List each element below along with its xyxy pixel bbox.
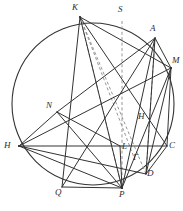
point-label-N: N [46,101,52,110]
segment-M-C [167,68,171,146]
segment-Q-P [62,187,122,188]
point-label-A: A [150,24,156,33]
point-label-D: D [147,169,154,178]
point-label-C: C [169,141,175,150]
solid-segments [19,17,171,188]
segment-K-C [80,17,167,146]
point-label-L: L [122,142,127,151]
point-label-Q: Q [55,188,62,197]
point-label-S: S [118,5,123,14]
point-label-K: K [72,3,78,12]
point-label-H: H [4,141,11,150]
point-label-H2: H [138,112,145,121]
vertex-dot-H [18,145,20,147]
point-label-P: P [119,190,125,199]
point-label-Gamma: Γ [133,153,138,162]
vertex-dot-K [79,16,81,18]
point-label-M: M [172,56,180,65]
geometry-figure: K S A M N H H L C Γ D Q P [0,0,183,211]
vertex-dot-M [170,67,172,69]
